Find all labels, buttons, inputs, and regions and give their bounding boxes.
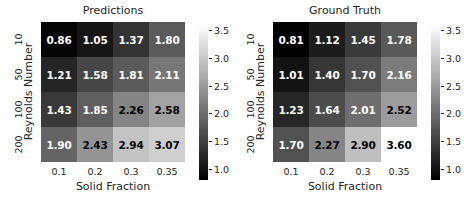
x-axis-ticklabels: 0.1 0.2 0.3 0.35 bbox=[41, 165, 185, 178]
heatmap-cell-value: 1.01 bbox=[278, 69, 303, 81]
x-axis-label: Solid Fraction bbox=[41, 180, 185, 193]
colorbar-tick-label: 2.0 bbox=[214, 108, 229, 119]
heatmap-cell: 2.52 bbox=[381, 92, 417, 127]
heatmap-cell: 2.94 bbox=[113, 127, 149, 162]
x-axis-label: Solid Fraction bbox=[273, 180, 417, 193]
heatmap-cell-value: 2.58 bbox=[154, 104, 179, 116]
heatmap-cell-value: 1.64 bbox=[314, 104, 339, 116]
x-axis-ticklabels: 0.1 0.2 0.3 0.35 bbox=[273, 165, 417, 178]
colorbar-tick: 1.0 bbox=[441, 164, 461, 175]
heatmap-cell: 1.01 bbox=[273, 57, 309, 92]
x-tick-3: 0.35 bbox=[149, 165, 185, 178]
colorbar-tick: 2.5 bbox=[441, 81, 461, 92]
heatmap-grid-predictions: 0.861.051.371.801.211.581.812.111.431.85… bbox=[41, 22, 185, 162]
heatmap-cell-value: 1.81 bbox=[118, 69, 143, 81]
x-tick-1: 0.2 bbox=[309, 165, 345, 178]
heatmap-cell: 1.58 bbox=[77, 57, 113, 92]
x-tick-0: 0.1 bbox=[41, 165, 77, 178]
colorbar-tick-mark bbox=[209, 141, 212, 142]
colorbar-tick-label: 3.0 bbox=[214, 53, 229, 64]
panel-ground-truth: Ground Truth Reynolds Number 10 50 100 2… bbox=[232, 0, 464, 204]
colorbar-tick: 2.0 bbox=[441, 108, 461, 119]
heatmap-cell: 1.45 bbox=[345, 22, 381, 57]
heatmap-cell-value: 1.58 bbox=[82, 69, 107, 81]
heatmap-cell-value: 3.60 bbox=[386, 139, 411, 151]
heatmap-cell-value: 0.81 bbox=[278, 34, 303, 46]
colorbar-tick: 1.0 bbox=[209, 164, 229, 175]
colorbar-tick: 3.0 bbox=[441, 53, 461, 64]
colorbar-tick-label: 1.0 bbox=[214, 164, 229, 175]
heatmap-cell-value: 1.23 bbox=[278, 104, 303, 116]
colorbar-tick-mark bbox=[441, 30, 444, 31]
heatmap-cell: 2.01 bbox=[345, 92, 381, 127]
colorbar-tick-label: 3.0 bbox=[446, 53, 461, 64]
colorbar-tick: 1.5 bbox=[209, 136, 229, 147]
heatmap-cell-value: 1.43 bbox=[46, 104, 71, 116]
colorbar-tick-mark bbox=[209, 58, 212, 59]
heatmap-cell-value: 2.11 bbox=[154, 69, 179, 81]
heatmap-cell-value: 1.90 bbox=[46, 139, 71, 151]
y-tick-2: 100 bbox=[230, 92, 270, 127]
heatmap-cell: 1.23 bbox=[273, 92, 309, 127]
heatmap-cell-value: 2.52 bbox=[386, 104, 411, 116]
heatmap-cell-value: 1.80 bbox=[154, 34, 179, 46]
heatmap-cell: 1.81 bbox=[113, 57, 149, 92]
heatmap-cell: 1.90 bbox=[41, 127, 77, 162]
x-tick-0: 0.1 bbox=[273, 165, 309, 178]
colorbar-tick-label: 2.0 bbox=[446, 108, 461, 119]
heatmap-cell: 2.43 bbox=[77, 127, 113, 162]
heatmap-cell-value: 1.21 bbox=[46, 69, 71, 81]
colorbar-tick-label: 2.5 bbox=[214, 81, 229, 92]
heatmap-cell: 1.21 bbox=[41, 57, 77, 92]
colorbar-tick: 3.0 bbox=[209, 53, 229, 64]
colorbar-tick-mark bbox=[441, 141, 444, 142]
heatmap-cell: 1.80 bbox=[149, 22, 185, 57]
colorbar-tick-label: 2.5 bbox=[446, 81, 461, 92]
heatmap-cell-value: 1.40 bbox=[314, 69, 339, 81]
colorbar-tick-mark bbox=[209, 169, 212, 170]
x-tick-2: 0.3 bbox=[113, 165, 149, 178]
panel-title: Predictions bbox=[41, 4, 185, 18]
heatmap-cell: 2.90 bbox=[345, 127, 381, 162]
heatmap-cell-value: 2.01 bbox=[350, 104, 375, 116]
colorbar-tick-mark bbox=[209, 113, 212, 114]
heatmap-cell-value: 1.85 bbox=[82, 104, 107, 116]
heatmap-cell-value: 2.16 bbox=[386, 69, 411, 81]
colorbar-tick-label: 3.5 bbox=[214, 25, 229, 36]
heatmap-cell-value: 1.37 bbox=[118, 34, 143, 46]
y-tick-0: 10 bbox=[230, 22, 270, 57]
heatmap-cell: 2.16 bbox=[381, 57, 417, 92]
figure-canvas: Predictions Reynolds Number 10 50 100 20… bbox=[0, 0, 464, 204]
y-tick-3: 200 bbox=[230, 127, 270, 162]
x-tick-2: 0.3 bbox=[345, 165, 381, 178]
y-axis-ticklabels: 10 50 100 200 bbox=[252, 22, 270, 162]
heatmap-cell-value: 1.78 bbox=[386, 34, 411, 46]
heatmap-cell-value: 2.94 bbox=[118, 139, 143, 151]
panel-title: Ground Truth bbox=[273, 4, 417, 18]
heatmap-cell-value: 1.70 bbox=[350, 69, 375, 81]
colorbar-tick-label: 3.5 bbox=[446, 25, 461, 36]
y-tick-1: 50 bbox=[230, 57, 270, 92]
heatmap-cell: 1.70 bbox=[345, 57, 381, 92]
colorbar-gradient bbox=[431, 25, 440, 180]
heatmap-cell: 0.86 bbox=[41, 22, 77, 57]
heatmap-cell-value: 2.43 bbox=[82, 139, 107, 151]
heatmap-cell: 1.05 bbox=[77, 22, 113, 57]
y-tick-0: 10 bbox=[0, 22, 38, 57]
heatmap-grid-ground-truth: 0.811.121.451.781.011.401.702.161.231.64… bbox=[273, 22, 417, 162]
colorbar-tick-mark bbox=[209, 86, 212, 87]
colorbar-tick-label: 1.5 bbox=[214, 136, 229, 147]
panel-predictions: Predictions Reynolds Number 10 50 100 20… bbox=[0, 0, 232, 204]
x-tick-1: 0.2 bbox=[77, 165, 113, 178]
colorbar-tick-mark bbox=[209, 30, 212, 31]
y-tick-1: 50 bbox=[0, 57, 38, 92]
heatmap-cell: 1.12 bbox=[309, 22, 345, 57]
heatmap-cell: 1.43 bbox=[41, 92, 77, 127]
heatmap-cell: 2.11 bbox=[149, 57, 185, 92]
colorbar-ticklabels: 1.01.52.02.53.03.5 bbox=[441, 25, 464, 180]
heatmap-cell-value: 2.26 bbox=[118, 104, 143, 116]
heatmap-cell-value: 2.90 bbox=[350, 139, 375, 151]
x-tick-3: 0.35 bbox=[381, 165, 417, 178]
colorbar-tick-mark bbox=[441, 113, 444, 114]
colorbar-tick: 3.5 bbox=[209, 25, 229, 36]
